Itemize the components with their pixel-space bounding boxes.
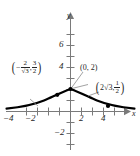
right-x-radical: √3	[104, 84, 112, 92]
paren-close-left: )	[38, 61, 42, 75]
point-label-vertex: (0, 2)	[80, 64, 97, 72]
x-tick-label-2: 2	[79, 114, 84, 123]
paren-close-right: )	[121, 81, 125, 95]
paren-open-left: (	[12, 61, 16, 75]
left-x-numerator: 2	[21, 60, 30, 67]
y-tick-label-6: 6	[59, 40, 64, 49]
right-y-denominator: 2	[114, 87, 120, 95]
x-tick-label-neg4: −4	[3, 114, 14, 123]
x-axis-label: x	[132, 110, 136, 118]
y-axis-label: y	[67, 12, 71, 20]
left-y-numerator: 3	[32, 60, 38, 67]
axis-arrowheads	[67, 12, 131, 115]
left-x-denominator: √3	[21, 67, 30, 75]
left-y-fraction: 3 2	[32, 60, 38, 75]
right-y-numerator: 1	[114, 80, 120, 87]
y-tick-label-neg2: −2	[54, 128, 65, 137]
right-y-fraction: 1 2	[114, 80, 120, 95]
data-point-right	[106, 104, 110, 108]
left-x-fraction: 2 √3	[21, 60, 30, 75]
x-tick-label-4: 4	[101, 114, 106, 123]
x-tick-label-neg2: −2	[25, 114, 36, 123]
point-label-right: ( 2 √3 , 1 2 )	[95, 80, 125, 95]
y-tick-label-4: 4	[59, 62, 64, 71]
graph-figure: y x −4 −2 2 4 6 4 −2 ( − 2 √3 , 3 2 ) (0…	[0, 0, 140, 156]
paren-open-right: (	[96, 81, 100, 95]
coordinate-plane	[0, 0, 140, 156]
left-y-denominator: 2	[32, 67, 38, 75]
data-point-left	[55, 93, 59, 97]
data-point-vertex	[68, 87, 72, 91]
point-label-left: ( − 2 √3 , 3 2 )	[11, 60, 42, 75]
